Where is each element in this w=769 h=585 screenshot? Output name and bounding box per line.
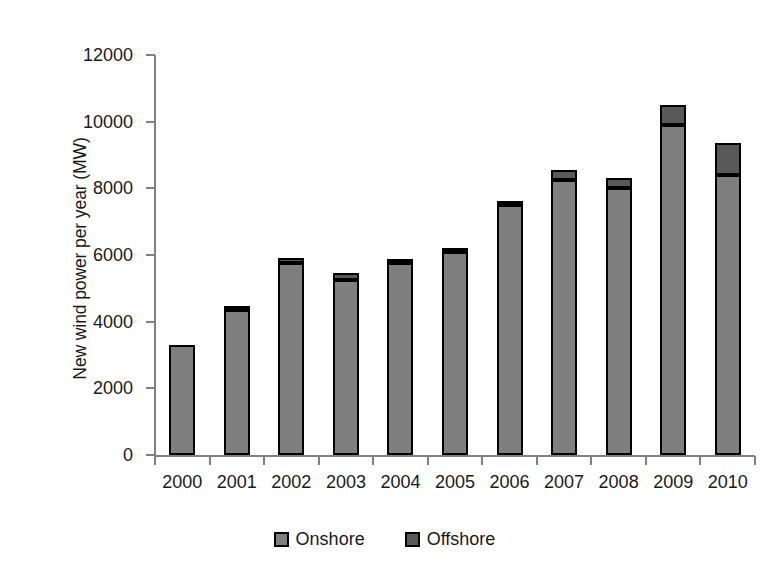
bar-segment-onshore[interactable] (551, 180, 577, 455)
bar-segment-offshore[interactable] (551, 170, 577, 180)
legend-entry[interactable]: Onshore (274, 530, 365, 548)
bar-segment-onshore[interactable] (387, 263, 413, 455)
y-tick (146, 254, 155, 256)
x-tick (263, 456, 265, 465)
y-tick (146, 387, 155, 389)
bar-segment-onshore[interactable] (660, 125, 686, 455)
bar-segment-offshore[interactable] (333, 273, 359, 280)
bar-group[interactable] (333, 273, 359, 455)
bar-segment-onshore[interactable] (497, 205, 523, 455)
x-tick (754, 456, 756, 465)
y-tick (146, 321, 155, 323)
bar-group[interactable] (278, 258, 304, 455)
bar-group[interactable] (551, 170, 577, 455)
y-tick (146, 187, 155, 189)
y-tick-label: 12000 (13, 46, 133, 64)
y-tick-label: 8000 (13, 179, 133, 197)
y-tick (146, 121, 155, 123)
x-tick (536, 456, 538, 465)
onshore-swatch-icon (274, 532, 289, 547)
bar-segment-offshore[interactable] (660, 105, 686, 125)
y-tick-label: 4000 (13, 313, 133, 331)
legend-label: Onshore (296, 530, 365, 548)
bar-segment-onshore[interactable] (169, 345, 195, 455)
legend-label: Offshore (427, 530, 496, 548)
bar-segment-offshore[interactable] (278, 258, 304, 263)
bar-group[interactable] (224, 308, 250, 455)
x-axis-line (154, 455, 755, 457)
bar-group[interactable] (169, 345, 195, 455)
bar-group[interactable] (660, 105, 686, 455)
x-tick (427, 456, 429, 465)
y-tick-label: 2000 (13, 379, 133, 397)
wind-power-bar-chart: New wind power per year (MW) 12000100008… (0, 0, 769, 585)
x-tick (318, 456, 320, 465)
bar-group[interactable] (387, 260, 413, 455)
y-tick (146, 54, 155, 56)
bar-group[interactable] (442, 248, 468, 455)
bar-segment-offshore[interactable] (606, 178, 632, 188)
bar-segment-onshore[interactable] (442, 252, 468, 455)
bar-segment-onshore[interactable] (606, 188, 632, 455)
plot-area: 120001000080006000400020000 200020012002… (155, 55, 755, 455)
x-tick (699, 456, 701, 465)
legend-entry[interactable]: Offshore (405, 530, 496, 548)
x-tick-label: 2010 (693, 473, 763, 491)
offshore-swatch-icon (405, 532, 420, 547)
bar-segment-offshore[interactable] (224, 306, 250, 310)
bar-group[interactable] (715, 143, 741, 455)
x-tick (481, 456, 483, 465)
bar-segment-onshore[interactable] (224, 310, 250, 455)
y-tick-label: 10000 (13, 113, 133, 131)
bar-segment-onshore[interactable] (278, 263, 304, 455)
x-tick (209, 456, 211, 465)
bar-segment-offshore[interactable] (442, 248, 468, 252)
x-tick (154, 456, 156, 465)
bar-segment-offshore[interactable] (387, 259, 413, 263)
chart-legend: OnshoreOffshore (0, 530, 769, 548)
bar-group[interactable] (606, 178, 632, 455)
x-tick (590, 456, 592, 465)
y-tick-label: 6000 (13, 246, 133, 264)
bar-segment-offshore[interactable] (497, 201, 523, 205)
x-tick (372, 456, 374, 465)
bar-segment-onshore[interactable] (333, 280, 359, 455)
bar-group[interactable] (497, 202, 523, 455)
y-tick-label: 0 (13, 446, 133, 464)
bar-segment-onshore[interactable] (715, 175, 741, 455)
bar-segment-offshore[interactable] (715, 143, 741, 175)
x-tick (645, 456, 647, 465)
